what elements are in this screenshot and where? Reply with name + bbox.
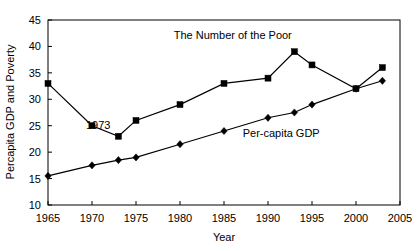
x-tick-label: 1990 bbox=[256, 212, 280, 224]
y-tick-label: 20 bbox=[29, 146, 41, 158]
x-axis-tick-labels: 196519701975198019851990199520002005 bbox=[36, 212, 412, 224]
data-point-marker bbox=[309, 62, 315, 68]
y-axis-title: Percapita GDP and Poverty bbox=[4, 44, 16, 179]
y-tick-label: 25 bbox=[29, 120, 41, 132]
y-tick-label: 40 bbox=[29, 40, 41, 52]
x-tick-label: 1980 bbox=[168, 212, 192, 224]
x-tick-label: 1975 bbox=[124, 212, 148, 224]
data-point-marker bbox=[115, 133, 121, 139]
series-label: The Number of the Poor bbox=[174, 29, 292, 41]
data-point-marker bbox=[177, 102, 183, 108]
data-point-marker bbox=[291, 49, 297, 55]
x-tick-label: 1985 bbox=[212, 212, 236, 224]
x-tick-label: 1965 bbox=[36, 212, 60, 224]
x-tick-label: 1995 bbox=[300, 212, 324, 224]
line-chart: 1015202530354045 19651970197519801985199… bbox=[0, 0, 420, 251]
series-label: Per-capita GDP bbox=[243, 127, 320, 139]
x-axis-title: Year bbox=[213, 231, 236, 243]
y-tick-label: 35 bbox=[29, 67, 41, 79]
x-tick-label: 1970 bbox=[80, 212, 104, 224]
data-point-marker bbox=[133, 117, 139, 123]
chart-container: 1015202530354045 19651970197519801985199… bbox=[0, 0, 420, 251]
annotation-label: 1973 bbox=[86, 119, 110, 131]
x-tick-label: 2000 bbox=[344, 212, 368, 224]
y-tick-label: 45 bbox=[29, 14, 41, 26]
y-tick-label: 15 bbox=[29, 173, 41, 185]
data-point-marker bbox=[265, 75, 271, 81]
y-tick-label: 30 bbox=[29, 93, 41, 105]
data-point-marker bbox=[379, 65, 385, 71]
chart-annotations: 1973 bbox=[86, 119, 110, 131]
x-tick-label: 2005 bbox=[388, 212, 412, 224]
data-point-marker bbox=[45, 80, 51, 86]
data-point-marker bbox=[221, 80, 227, 86]
y-tick-label: 10 bbox=[29, 199, 41, 211]
